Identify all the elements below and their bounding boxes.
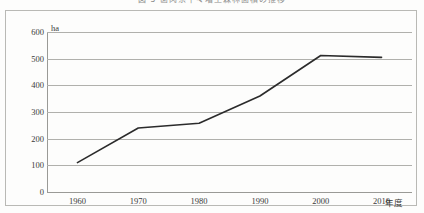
y-tick-label-0: 0 bbox=[40, 187, 44, 197]
y-tick-label-600: 600 bbox=[31, 27, 44, 37]
x-axis-title: 年度 bbox=[385, 196, 403, 208]
chart-frame: ha 0100200300400500600 19601970198019902… bbox=[5, 10, 417, 206]
x-tick-label-1980: 1980 bbox=[191, 196, 208, 206]
plot-inner bbox=[47, 32, 412, 192]
y-tick-label-500: 500 bbox=[31, 54, 44, 64]
gridline-0 bbox=[47, 192, 412, 193]
x-tick-label-1960: 1960 bbox=[69, 196, 86, 206]
y-tick-label-300: 300 bbox=[31, 107, 44, 117]
series-line-forest-area bbox=[47, 32, 412, 192]
x-tick-label-1990: 1990 bbox=[251, 196, 268, 206]
figure-caption-strip: 図-5 歯肉系牛々増工森林面積の推移 bbox=[0, 0, 424, 8]
y-tick-label-200: 200 bbox=[31, 134, 44, 144]
plot-area: 0100200300400500600 19601970198019902000… bbox=[47, 32, 412, 192]
figure-root: 図-5 歯肉系牛々増工森林面積の推移 ha 010020030040050060… bbox=[0, 0, 424, 213]
y-tick-label-400: 400 bbox=[31, 80, 44, 90]
figure-caption: 図-5 歯肉系牛々増工森林面積の推移 bbox=[138, 0, 287, 4]
x-tick-label-1970: 1970 bbox=[130, 196, 147, 206]
x-tick-label-2000: 2000 bbox=[312, 196, 329, 206]
y-tick-label-100: 100 bbox=[31, 160, 44, 170]
